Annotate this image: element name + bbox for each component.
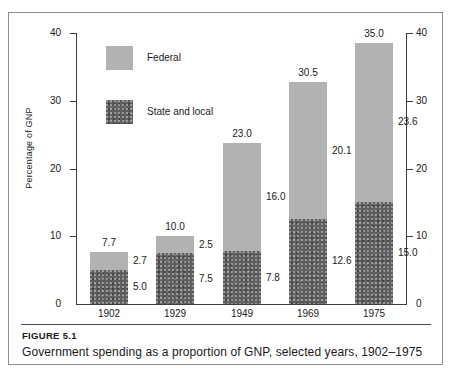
- bar-segment-state-and-local-1975[interactable]: [355, 202, 393, 304]
- federal-swatch: [106, 46, 133, 70]
- data-label-total-1949: 23.0: [223, 129, 261, 139]
- figure-number-label: FIGURE 5.1: [22, 330, 434, 342]
- bar-segment-state-and-local-1949[interactable]: [223, 251, 261, 304]
- data-label-total-1975: 35.0: [355, 29, 393, 39]
- bar-segment-state-and-local-1902[interactable]: [90, 270, 128, 304]
- y-axis-tick-right-30: [407, 101, 413, 102]
- figure-frame: Percentage of GNP 001010202030304040 Fed…: [8, 12, 443, 365]
- y-axis-label-right-0: 0: [416, 299, 422, 309]
- y-axis-label-left-40: 40: [50, 28, 61, 38]
- data-label-state-and-local-1969: 12.6: [332, 256, 351, 266]
- bar-segment-federal-1929[interactable]: [156, 236, 194, 253]
- data-label-total-1929: 10.0: [156, 222, 194, 232]
- y-axis-tick-right-40: [407, 33, 413, 34]
- legend-item-state-and-local: State and local: [106, 100, 213, 124]
- chart-plot-area: Percentage of GNP 001010202030304040 Fed…: [9, 13, 444, 313]
- bar-segment-federal-1975[interactable]: [355, 43, 393, 203]
- data-label-state-and-local-1975: 15.0: [398, 248, 417, 258]
- y-axis-tick-left-20: [70, 169, 76, 170]
- legend-item-federal: Federal: [106, 46, 181, 70]
- state-and-local-swatch: [106, 100, 133, 124]
- y-axis-label-left-30: 30: [50, 96, 61, 106]
- x-axis-label-1929: 1929: [149, 309, 201, 319]
- y-axis-label-left-20: 20: [50, 164, 61, 174]
- y-axis-tick-right-20: [407, 169, 413, 170]
- data-label-federal-1969: 20.1: [332, 146, 351, 156]
- figure-caption: FIGURE 5.1 Government spending as a prop…: [22, 330, 434, 360]
- data-label-state-and-local-1929: 7.5: [199, 274, 213, 284]
- bar-segment-federal-1902[interactable]: [90, 252, 128, 270]
- y-axis-label-right-10: 10: [416, 231, 427, 241]
- x-axis-label-1975: 1975: [348, 309, 400, 319]
- bar-segment-state-and-local-1969[interactable]: [289, 219, 327, 304]
- data-label-federal-1949: 16.0: [266, 192, 285, 202]
- y-axis-tick-left-30: [70, 101, 76, 102]
- y-axis-tick-left-40: [70, 33, 76, 34]
- x-axis-label-1949: 1949: [216, 309, 268, 319]
- y-axis-label-right-20: 20: [416, 164, 427, 174]
- bar-segment-federal-1949[interactable]: [223, 143, 261, 251]
- y-axis-tick-right-10: [407, 236, 413, 237]
- caption-divider: [21, 324, 431, 325]
- y-axis-label-right-40: 40: [416, 28, 427, 38]
- data-label-total-1902: 7.7: [90, 238, 128, 248]
- data-label-state-and-local-1949: 7.8: [266, 273, 280, 283]
- y-axis-title: Percentage of GNP: [24, 98, 34, 198]
- bar-segment-state-and-local-1929[interactable]: [156, 253, 194, 304]
- legend-label-federal: Federal: [147, 53, 181, 63]
- data-label-federal-1902: 2.7: [133, 256, 147, 266]
- figure-caption-text: Government spending as a proportion of G…: [22, 345, 434, 360]
- y-axis-tick-left-10: [70, 236, 76, 237]
- y-axis-label-left-0: 0: [55, 299, 61, 309]
- data-label-federal-1975: 23.6: [398, 117, 417, 127]
- x-axis-label-1969: 1969: [282, 309, 334, 319]
- data-label-state-and-local-1902: 5.0: [133, 282, 147, 292]
- data-label-federal-1929: 2.5: [199, 240, 213, 250]
- x-axis-line: [76, 304, 407, 305]
- data-label-total-1969: 30.5: [289, 68, 327, 78]
- y-axis-left-line: [76, 33, 77, 305]
- x-axis-label-1902: 1902: [83, 309, 135, 319]
- bar-segment-federal-1969[interactable]: [289, 82, 327, 218]
- y-axis-label-left-10: 10: [50, 231, 61, 241]
- y-axis-label-right-30: 30: [416, 96, 427, 106]
- legend-label-state-and-local: State and local: [147, 107, 213, 117]
